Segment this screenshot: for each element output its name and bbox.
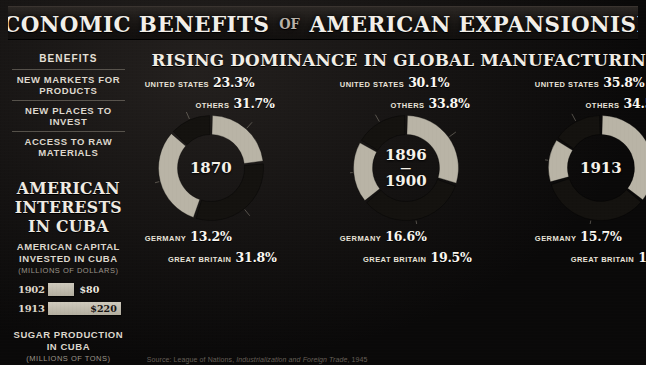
donut-chart-1870: UNITED STATES 23.3% OTHERS 31.7% 1870 (143, 75, 279, 354)
bar-track: $80 (48, 283, 121, 296)
donut-graphic: 1870 (155, 112, 267, 224)
donut-chart-1913: UNITED STATES 35.8% OTHERS 34.5% 1913 (533, 75, 646, 354)
donut-leader-line (572, 114, 576, 121)
capital-invested-chart: AMERICAN CAPITAL INVESTED IN CUBA (MILLI… (12, 241, 125, 319)
label-country: GREAT BRITAIN (571, 255, 634, 264)
donut-leader-line (416, 221, 417, 224)
label-germany: GERMANY 15.7% (535, 229, 622, 244)
bar-value-label: $220 (90, 303, 120, 314)
capital-chart-bars: 1902 $80 1913 $220 (12, 281, 125, 316)
donut-leader-line (589, 221, 591, 224)
sugar-chart-subtitle: SUGAR PRODUCTION IN CUBA (12, 329, 125, 353)
donut-slice (407, 116, 459, 184)
label-country: GERMANY (340, 234, 382, 243)
donut-leader-line (244, 210, 249, 216)
donut-slice (196, 164, 263, 221)
sugar-chart-unit: (MILLIONS OF TONS) (12, 353, 125, 365)
capital-chart-subtitle: AMERICAN CAPITAL INVESTED IN CUBA (12, 241, 125, 265)
donut-slice (558, 116, 600, 149)
left-panel: BENEFITS NEW MARKETS FOR PRODUCTS NEW PL… (8, 45, 129, 363)
sugar-production-chart: SUGAR PRODUCTION IN CUBA (MILLIONS OF TO… (12, 329, 125, 365)
label-country: GREAT BRITAIN (168, 255, 231, 264)
bar-row: 1913 $220 (18, 300, 121, 316)
label-country: GREAT BRITAIN (363, 255, 426, 264)
label-percent: 35.8% (603, 75, 644, 90)
donut-slice (367, 179, 456, 220)
donut-slice (353, 143, 379, 201)
label-percent: 31.8% (235, 250, 276, 265)
donut-chart-group: UNITED STATES 23.3% OTHERS 31.7% 1870 (141, 75, 646, 354)
label-country: GERMANY (535, 234, 577, 243)
label-country: OTHERS (586, 101, 620, 110)
donut-svg-1896-1900 (350, 112, 462, 224)
label-percent: 19.5% (430, 250, 471, 265)
label-great-britain: GREAT BRITAIN 31.8% (168, 250, 277, 265)
source-prefix: Source: League of Nations, (147, 356, 236, 363)
right-source-note: Source: League of Nations, Industrializa… (141, 354, 646, 363)
right-panel-header: RISING DOMINANCE IN GLOBAL MANUFACTURING (141, 47, 646, 73)
title-connector: OF (277, 16, 301, 32)
label-united-states: UNITED STATES 30.1% (340, 75, 450, 90)
capital-chart-unit: (MILLIONS OF DOLLARS) (12, 265, 125, 277)
donut-svg-1870 (155, 112, 267, 224)
bar-fill: $220 (48, 302, 121, 315)
label-others: OTHERS 34.5% (586, 96, 646, 111)
poster-header: ECONOMIC BENEFITS OF AMERICAN EXPANSIONI… (8, 6, 638, 40)
bar-row: 1902 $80 (18, 281, 121, 297)
source-italic: Industrialization and Foreign Trade (236, 356, 347, 363)
title-part-2: AMERICAN EXPANSIONISM (309, 10, 638, 37)
label-percent: 14% (638, 250, 646, 265)
label-percent: 33.8% (428, 96, 469, 111)
label-germany: GERMANY 16.6% (340, 229, 427, 244)
label-percent: 30.1% (408, 75, 449, 90)
label-country: OTHERS (195, 101, 229, 110)
label-country: OTHERS (391, 101, 425, 110)
label-others: OTHERS 31.7% (195, 96, 274, 111)
label-great-britain: GREAT BRITAIN 19.5% (363, 250, 472, 265)
label-others: OTHERS 33.8% (391, 96, 470, 111)
label-percent: 23.3% (213, 75, 254, 90)
label-great-britain: GREAT BRITAIN 14% (571, 250, 646, 265)
donut-slice (551, 179, 641, 221)
source-suffix: , 1945 (347, 356, 367, 363)
label-percent: 16.6% (385, 229, 426, 244)
donut-svg-1913 (545, 112, 646, 224)
donut-slice (548, 140, 572, 182)
bar-year-label: 1913 (18, 303, 48, 314)
title-part-1: ECONOMIC BENEFITS (8, 10, 269, 37)
bar-track: $220 (48, 302, 121, 315)
donut-slice (158, 134, 199, 218)
cuba-section-title: AMERICAN INTERESTS IN CUBA (15, 179, 122, 236)
poster-body: BENEFITS NEW MARKETS FOR PRODUCTS NEW PL… (8, 45, 638, 363)
donut-leader-line (449, 132, 455, 137)
donut-chart-1896-1900: UNITED STATES 30.1% OTHERS 33.8% 1896 (338, 75, 474, 354)
label-percent: 13.2% (190, 229, 231, 244)
right-panel: RISING DOMINANCE IN GLOBAL MANUFACTURING… (139, 45, 646, 363)
infographic-poster: ECONOMIC BENEFITS OF AMERICAN EXPANSIONI… (0, 0, 646, 365)
benefit-item: NEW MARKETS FOR PRODUCTS (12, 69, 125, 100)
donut-leader-line (155, 182, 159, 184)
benefit-item: ACCESS TO RAW MATERIALS (12, 131, 125, 162)
donut-slice (212, 116, 263, 164)
bar-value-label: $80 (79, 284, 99, 295)
label-percent: 34.5% (624, 96, 646, 111)
right-panel-title: RISING DOMINANCE IN GLOBAL MANUFACTURING (151, 50, 646, 70)
bar-year-label: 1902 (18, 284, 48, 295)
label-percent: 31.7% (233, 96, 274, 111)
page-title: ECONOMIC BENEFITS OF AMERICAN EXPANSIONI… (8, 10, 638, 37)
label-country: UNITED STATES (340, 80, 404, 89)
label-united-states: UNITED STATES 23.3% (145, 75, 255, 90)
label-germany: GERMANY 13.2% (145, 229, 232, 244)
donut-leader-line (350, 173, 353, 174)
donut-slice (361, 116, 405, 151)
donut-graphic: 1896 — 1900 (350, 112, 462, 224)
donut-graphic: 1913 (545, 112, 646, 224)
label-percent: 15.7% (580, 229, 621, 244)
benefits-heading: BENEFITS (12, 49, 125, 69)
donut-slice (602, 116, 646, 200)
bar-fill: $80 (48, 283, 74, 296)
label-country: UNITED STATES (145, 80, 209, 89)
donut-leader-line (545, 159, 548, 160)
label-country: UNITED STATES (535, 80, 599, 89)
donut-leader-line (247, 122, 252, 128)
